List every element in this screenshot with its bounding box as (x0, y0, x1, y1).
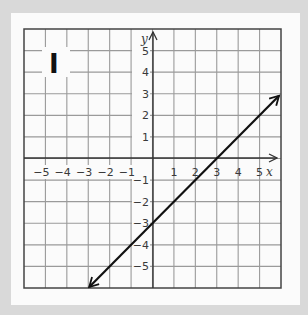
x-axis-label: x (266, 165, 273, 179)
x-tick-label: −2 (97, 166, 113, 179)
graph-label: I (49, 49, 59, 79)
x-tick-label: −3 (76, 166, 92, 179)
y-axis-label: y (140, 32, 148, 46)
y-tick-label: −2 (133, 196, 149, 209)
x-tick-label: 4 (235, 166, 242, 179)
y-tick-label: 3 (142, 88, 149, 101)
x-tick-label: 1 (170, 166, 177, 179)
data-line (89, 96, 279, 287)
y-tick-label: −5 (133, 260, 149, 273)
y-tick-label: −1 (133, 174, 149, 187)
y-tick-label: 5 (142, 45, 149, 58)
x-tick-label: −4 (55, 166, 71, 179)
coordinate-graph: −5−4−3−2−11234554321−1−2−3−4−5 x y I (0, 0, 308, 315)
x-tick-label: 3 (213, 166, 220, 179)
y-tick-label: 2 (142, 109, 149, 122)
y-tick-label: 4 (142, 66, 149, 79)
y-tick-label: 1 (142, 131, 149, 144)
x-tick-label: −5 (33, 166, 49, 179)
x-tick-label: 5 (256, 166, 263, 179)
